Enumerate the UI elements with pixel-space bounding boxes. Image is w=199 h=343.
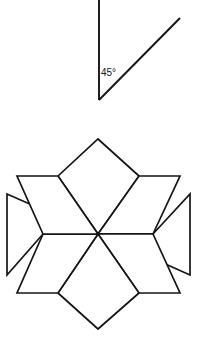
angle-label: 45°	[101, 67, 116, 78]
figure-canvas: 45°	[0, 0, 199, 343]
